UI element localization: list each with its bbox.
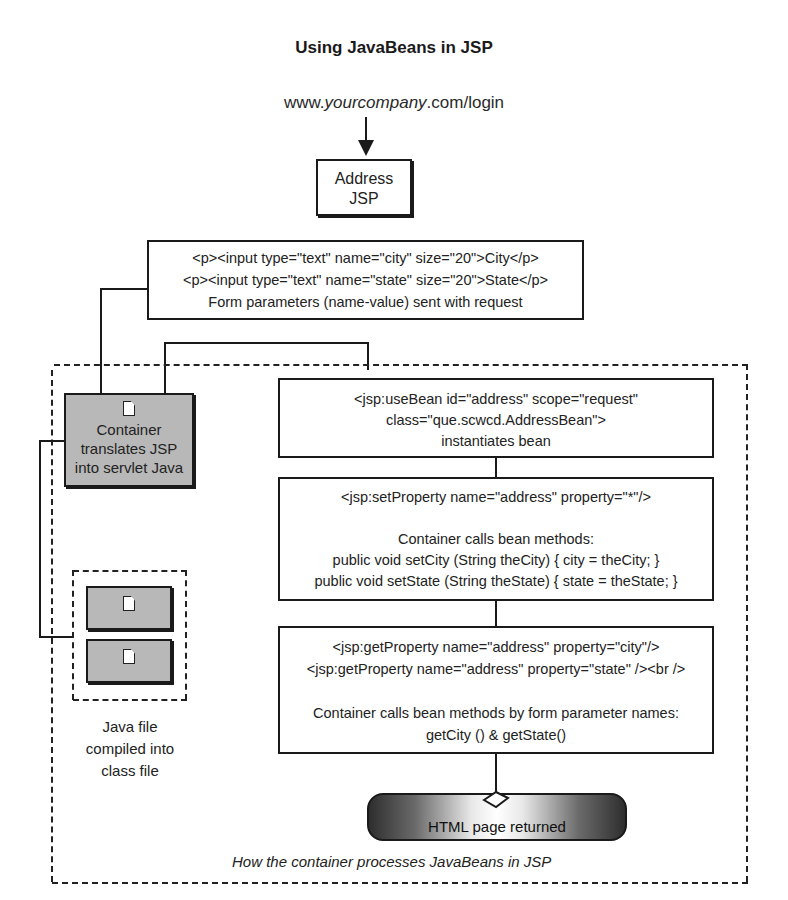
url-prefix: www. bbox=[284, 93, 325, 112]
container-caption: How the container processes JavaBeans in… bbox=[232, 853, 551, 870]
request-url: www.yourcompany.com/login bbox=[0, 93, 788, 113]
getproperty-line3: Container calls bean methods by form par… bbox=[280, 702, 712, 724]
document-icon bbox=[123, 596, 135, 611]
java-files-caption: Java file compiled into class file bbox=[60, 716, 200, 782]
address-jsp-box: Address JSP bbox=[316, 159, 412, 216]
getproperty-line2: <jsp:getProperty name="address" property… bbox=[280, 658, 712, 680]
url-domain: yourcompany bbox=[325, 93, 427, 112]
setproperty-line1: <jsp:setProperty name="address" property… bbox=[280, 487, 712, 508]
form-parameters-box: <p><input type="text" name="city" size="… bbox=[147, 240, 584, 320]
connector bbox=[495, 601, 497, 627]
java-caption-line1: Java file bbox=[60, 716, 200, 738]
form-line-city: <p><input type="text" name="city" size="… bbox=[149, 247, 582, 269]
setproperty-line3: public void setCity (String theCity) { c… bbox=[280, 550, 712, 571]
container-line2: translates JSP bbox=[66, 439, 192, 458]
usebean-line2: class="que.scwcd.AddressBean"> bbox=[280, 410, 712, 431]
address-jsp-line1: Address bbox=[318, 169, 410, 189]
java-caption-line2: compiled into bbox=[60, 738, 200, 760]
java-group-border-left bbox=[72, 570, 74, 700]
container-border-right bbox=[746, 364, 748, 882]
container-line3: into servlet Java bbox=[66, 458, 192, 477]
form-line-description: Form parameters (name-value) sent with r… bbox=[149, 291, 582, 313]
container-line1: Container bbox=[66, 420, 192, 439]
url-suffix: .com/login bbox=[427, 93, 504, 112]
container-border-bottom bbox=[52, 882, 748, 884]
container-border-top bbox=[54, 364, 748, 366]
connector bbox=[100, 288, 102, 394]
container-border-left bbox=[51, 370, 53, 882]
connector bbox=[495, 754, 497, 794]
connector bbox=[39, 440, 41, 637]
connector bbox=[164, 342, 369, 344]
arrow-head-icon bbox=[358, 140, 374, 156]
diagram-title: Using JavaBeans in JSP bbox=[0, 38, 788, 58]
java-caption-line3: class file bbox=[60, 760, 200, 782]
java-file-box bbox=[86, 586, 172, 630]
container-translates-box: Container translates JSP into servlet Ja… bbox=[64, 393, 194, 487]
usebean-box: <jsp:useBean id="address" scope="request… bbox=[278, 378, 714, 458]
connector bbox=[39, 636, 73, 638]
diamond-connector-icon bbox=[482, 790, 510, 810]
setproperty-line4: public void setState (String theState) {… bbox=[280, 571, 712, 592]
getproperty-line4: getCity () & getState() bbox=[280, 724, 712, 746]
getproperty-line1: <jsp:getProperty name="address" property… bbox=[280, 636, 712, 658]
class-file-box bbox=[86, 639, 172, 683]
setproperty-box: <jsp:setProperty name="address" property… bbox=[278, 477, 714, 601]
java-group-border-bottom bbox=[73, 699, 187, 701]
java-group-border-top bbox=[73, 570, 187, 572]
html-page-returned-label: HTML page returned bbox=[428, 818, 566, 835]
connector bbox=[100, 288, 148, 290]
setproperty-line2: Container calls bean methods: bbox=[280, 529, 712, 550]
document-icon bbox=[123, 649, 135, 664]
connector bbox=[495, 458, 497, 478]
usebean-line1: <jsp:useBean id="address" scope="request… bbox=[280, 389, 712, 410]
java-group-border-right bbox=[185, 570, 187, 700]
form-line-state: <p><input type="text" name="state" size=… bbox=[149, 269, 582, 291]
connector bbox=[39, 440, 65, 442]
getproperty-box: <jsp:getProperty name="address" property… bbox=[278, 626, 714, 754]
address-jsp-line2: JSP bbox=[318, 189, 410, 209]
usebean-line3: instantiates bean bbox=[280, 431, 712, 452]
connector bbox=[164, 342, 166, 394]
document-icon bbox=[66, 401, 192, 420]
